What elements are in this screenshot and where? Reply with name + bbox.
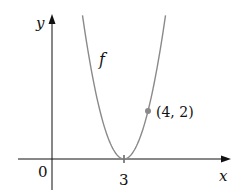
x-axis-arrow-icon (221, 156, 231, 163)
point-marker (145, 108, 151, 114)
function-curve-f (82, 15, 165, 159)
y-axis-label: y (35, 14, 45, 32)
x-axis-label: x (219, 167, 228, 185)
y-axis-arrow-icon (49, 14, 56, 24)
x-tick-label-3: 3 (119, 171, 129, 189)
function-label: f (98, 50, 108, 69)
point-label: (4, 2) (156, 104, 194, 120)
origin-label: 0 (38, 163, 48, 181)
graph: y x 0 3 f (4, 2) (0, 0, 243, 193)
